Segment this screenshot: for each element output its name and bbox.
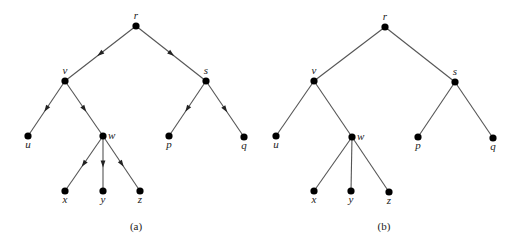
node-label-a-p: p [165, 138, 172, 150]
node-label-b-y: y [348, 193, 354, 205]
node-label-a-u: u [25, 138, 31, 150]
node-label-b-s: s [453, 65, 457, 77]
node-label-b-x: x [311, 193, 317, 205]
edges-layer [28, 26, 493, 192]
node-label-b-u: u [273, 138, 279, 150]
node-label-b-q: q [490, 140, 496, 152]
arrowhead-icon [82, 160, 88, 167]
node-label-a-y: y [100, 193, 106, 205]
edge-b-w-x [314, 137, 352, 191]
edge-b-w-z [352, 137, 389, 192]
edge-b-r-s [385, 27, 455, 82]
caption-a: (a) [130, 220, 143, 233]
node-a-s [202, 77, 209, 84]
edge-b-v-w [314, 81, 352, 137]
nodes-layer [24, 22, 496, 195]
caption-b: (b) [378, 220, 391, 233]
node-label-a-w: w [108, 129, 116, 141]
arrowhead-icon [118, 160, 124, 167]
node-label-b-z: z [386, 194, 392, 206]
node-b-s [451, 78, 458, 85]
tree-diagram: rvsuwpqxyzrvsuwpqxyz (a) (b) [0, 0, 520, 241]
arrowhead-icon [80, 105, 86, 112]
edge-b-w-y [351, 137, 352, 191]
edge-b-s-q [455, 82, 493, 138]
node-label-a-q: q [241, 139, 247, 151]
node-label-a-x: x [62, 193, 68, 205]
node-a-v [61, 77, 68, 84]
node-label-b-r: r [383, 10, 388, 22]
node-label-b-v: v [312, 64, 317, 76]
node-label-a-z: z [137, 193, 143, 205]
edge-b-r-v [314, 27, 385, 81]
node-a-w [99, 132, 106, 139]
node-label-a-s: s [204, 64, 208, 76]
node-label-b-w: w [357, 130, 365, 142]
arrowhead-icon [221, 105, 227, 112]
edge-b-v-u [276, 81, 314, 136]
node-label-b-p: p [414, 139, 421, 151]
node-b-r [381, 23, 388, 30]
node-label-a-v: v [63, 64, 68, 76]
node-b-w [348, 133, 355, 140]
arrowhead-icon [44, 105, 50, 112]
arrowhead-icon [185, 105, 191, 112]
node-a-r [132, 22, 139, 29]
edge-b-s-p [418, 82, 455, 137]
node-b-v [310, 77, 317, 84]
arrowhead-icon [101, 161, 106, 168]
labels-layer: rvsuwpqxyzrvsuwpqxyz [25, 9, 496, 206]
node-label-a-r: r [134, 9, 139, 21]
